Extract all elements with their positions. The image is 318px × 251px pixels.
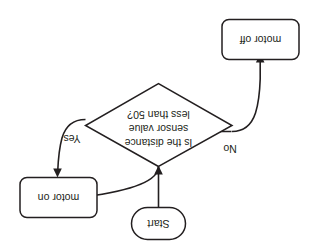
node-motor-off[interactable]: motor off: [222, 20, 299, 60]
node-decision-label-line-2: sensor value: [129, 123, 189, 135]
node-decision[interactable]: Is the distance sensor value less than 5…: [86, 84, 233, 167]
node-start-label: Start: [147, 218, 169, 230]
node-decision-label-line-3: less than 50?: [127, 109, 190, 121]
node-motor-off-label: motor off: [240, 34, 281, 46]
edge-decision-to-motor-on-arrowhead: [53, 169, 62, 178]
edge-decision-to-motor-off-line: [232, 79, 260, 132]
edge-decision-to-motor-on: Yes: [53, 120, 85, 178]
edge-start-to-decision: [154, 166, 163, 208]
flowchart-svg: Yes No Start moto: [0, 0, 318, 251]
flowchart-canvas: Yes No Start moto: [0, 0, 318, 251]
node-decision-label-line-1: Is the distance: [124, 137, 192, 149]
edge-label-no: No: [223, 143, 237, 155]
rotated-diagram-group: Yes No Start moto: [20, 20, 299, 240]
node-motor-on[interactable]: motor on: [20, 178, 97, 218]
node-motor-on-label: motor on: [38, 192, 80, 204]
edge-label-yes: Yes: [63, 133, 80, 145]
node-start[interactable]: Start: [132, 208, 186, 240]
